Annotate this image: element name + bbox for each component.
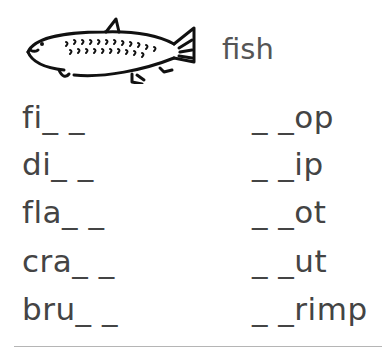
word-blank-right-4: _ _ut [252, 246, 327, 277]
word-blank-right-5: _ _rimp [252, 294, 368, 325]
word-blank-left-2: di_ _ [22, 149, 94, 180]
word-blank-left-1: fi_ _ [22, 102, 85, 133]
word-blank-right-3: _ _ot [252, 197, 326, 228]
word-blank-right-1: _ _op [252, 102, 334, 133]
divider-line [14, 346, 382, 347]
word-blank-left-3: fla_ _ [22, 197, 104, 228]
fish-icon [24, 12, 200, 84]
word-blank-right-2: _ _ip [252, 149, 324, 180]
word-blank-left-5: bru_ _ [22, 294, 118, 325]
picture-label: fish [222, 32, 274, 66]
word-blank-left-4: cra_ _ [22, 246, 115, 277]
